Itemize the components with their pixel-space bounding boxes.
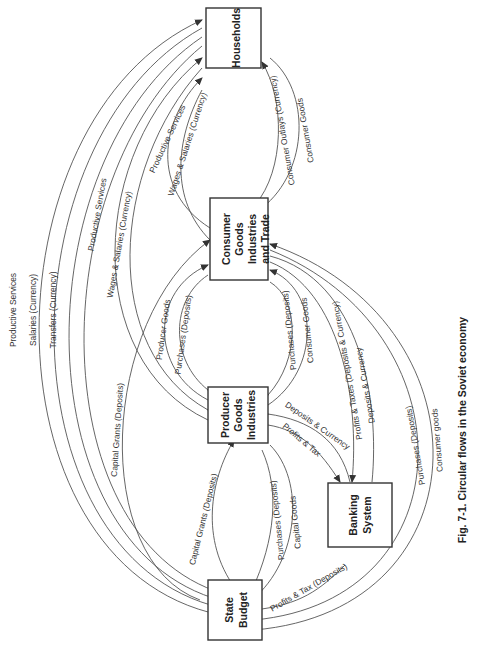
node-label: System <box>361 496 373 533</box>
flow-label: Purchases (Deposits) <box>173 294 194 375</box>
flow-label: Producer Goods <box>154 299 172 361</box>
node-producer-goods: Producer Goods Industries <box>208 387 268 443</box>
flow-label: Transfers (Currency) <box>48 271 58 348</box>
node-banking-system: Banking System <box>328 483 392 547</box>
node-label: and Trade <box>259 214 271 264</box>
flow-arrow <box>84 46 232 596</box>
node-label: Goods <box>232 398 244 431</box>
node-label: Consumer <box>220 213 232 265</box>
flow-label: Productive Services <box>86 177 109 252</box>
flow-label: Purchases (Deposits) <box>268 480 286 561</box>
node-label: Goods <box>233 222 245 255</box>
flow-label: Consumer Goods <box>299 297 316 363</box>
flow-label: Profits & Tax (Deposits) <box>268 561 349 613</box>
node-label: Industries <box>245 390 257 440</box>
flow-label: Salaries (Currency) <box>28 274 38 346</box>
flow-label: Consumer goods <box>429 408 445 472</box>
node-label: Banking <box>347 494 359 535</box>
flow-label: Productive Services <box>8 273 18 347</box>
node-label: Households <box>230 8 242 68</box>
node-households: Households <box>206 8 261 68</box>
flow-label: Wages & Salaries (Currency) <box>166 91 209 197</box>
node-label: State <box>223 597 235 623</box>
flow-label: Capital Grants (Deposits) <box>187 472 219 566</box>
node-state-budget: State Budget <box>208 580 262 640</box>
node-label: Budget <box>237 591 249 628</box>
flow-label: Consumer Outlays (Currency) <box>267 75 296 186</box>
flow-label: Capital Goods <box>287 495 302 549</box>
flow-label: Consumer Goods <box>294 97 315 163</box>
flow-label: Purchases (Deposits) <box>280 290 298 371</box>
node-label: Producer <box>219 392 231 438</box>
node-label: Industries <box>246 214 258 264</box>
node-consumer-goods: Consumer Goods Industries and Trade <box>210 198 271 280</box>
flow-arrow <box>212 440 235 588</box>
flow-label: Purchases (Deposits) <box>403 405 427 486</box>
figure-caption: Fig. 7-1. Circular flows in the Soviet e… <box>456 317 468 544</box>
circular-flow-diagram: Households Consumer Goods Industries and… <box>0 0 481 648</box>
flow-arrow <box>252 450 273 590</box>
